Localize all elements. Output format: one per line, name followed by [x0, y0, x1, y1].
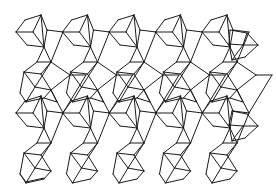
cube-tessellation-drawing	[0, 0, 276, 194]
